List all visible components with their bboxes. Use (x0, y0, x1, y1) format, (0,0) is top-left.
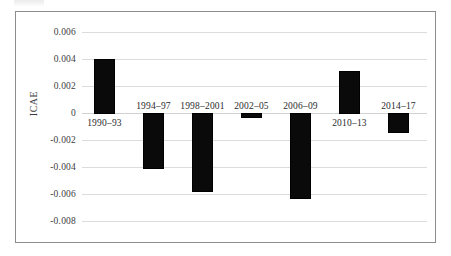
gridline-0.006 (82, 32, 427, 33)
ytick-label-text: -0.002 (24, 135, 76, 145)
gridline--0.008 (82, 221, 427, 222)
chart-frame: 0.006 0.004 0.002 0 -0.002 -0.004 -0.006… (15, 11, 436, 243)
ytick-label-1: 0.004 (16, 54, 76, 64)
gridline-0.004 (82, 59, 427, 60)
gridline-0.002 (82, 86, 427, 87)
ytick-label-3: 0 (16, 108, 76, 118)
ytick-label-text: 0.004 (24, 54, 76, 64)
y-axis-title: ICAE (28, 81, 39, 127)
bar-1998-2001[interactable] (192, 113, 213, 192)
gridline--0.002 (82, 140, 427, 141)
bar-1990-93[interactable] (94, 59, 115, 114)
ytick-label-2: 0.002 (16, 81, 76, 91)
page-crop-artifact (14, 0, 44, 7)
gridline--0.004 (82, 167, 427, 168)
category-label-2014-17: 2014–17 (368, 101, 429, 111)
category-label-2006-09: 2006–09 (270, 101, 331, 111)
ytick-label-text: -0.008 (24, 216, 76, 226)
bar-2014-17[interactable] (388, 113, 409, 133)
bar-2010-13[interactable] (339, 71, 360, 114)
gridline--0.006 (82, 194, 427, 195)
ytick-label-text: -0.004 (24, 162, 76, 172)
bar-2006-09[interactable] (290, 113, 311, 199)
bar-1994-97[interactable] (143, 113, 164, 169)
ytick-label-6: -0.006 (16, 189, 76, 199)
category-label-1990-93: 1990–93 (74, 118, 135, 128)
ytick-label-5: -0.004 (16, 162, 76, 172)
ytick-label-0: 0.006 (16, 27, 76, 37)
category-label-2010-13: 2010–13 (319, 118, 380, 128)
plot-area: 0.006 0.004 0.002 0 -0.002 -0.004 -0.006… (16, 12, 437, 244)
ytick-label-7: -0.008 (16, 216, 76, 226)
bar-2002-05[interactable] (241, 113, 262, 118)
ytick-label-text: -0.006 (24, 189, 76, 199)
ytick-label-4: -0.002 (16, 135, 76, 145)
ytick-label-text: 0.006 (24, 27, 76, 37)
